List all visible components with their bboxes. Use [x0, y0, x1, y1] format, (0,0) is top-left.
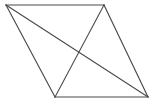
parallelogram-diagram [0, 0, 154, 105]
figure-canvas [0, 0, 154, 105]
